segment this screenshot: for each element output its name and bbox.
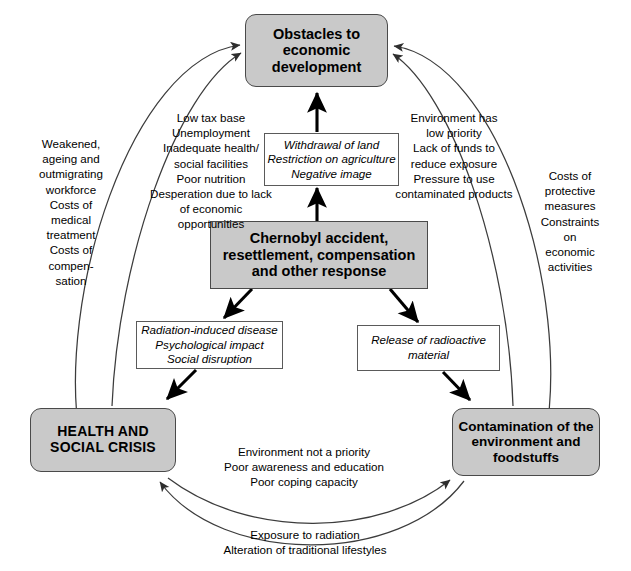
annotation-environment-low-priority: Environment has low priority Lack of fun… (390, 110, 518, 201)
node-contamination-of-environment[interactable]: Contamination of the environment and foo… (452, 408, 600, 476)
node-health-and-social-crisis[interactable]: HEALTH AND SOCIAL CRISIS (30, 408, 176, 472)
label-withdrawal-text: Withdrawal of land Restriction on agricu… (267, 138, 395, 182)
node-obstacles-label: Obstacles to economic development (246, 26, 387, 76)
label-box-radiation-induced-disease: Radiation-induced disease Psychological … (136, 321, 283, 369)
label-radiation-text: Radiation-induced disease Psychological … (141, 323, 278, 367)
node-contamination-label: Contamination of the environment and foo… (453, 419, 599, 465)
diagram-canvas: Obstacles to economic development Cherno… (0, 0, 631, 571)
annotation-environment-not-a-priority: Environment not a priority Poor awarenes… (206, 444, 402, 490)
annotation-exposure-to-radiation: Exposure to radiation Alteration of trad… (205, 527, 405, 557)
arrow-radiation-to-health (167, 370, 196, 399)
label-release-text: Release of radioactive material (371, 333, 486, 362)
node-obstacles-to-economic-development[interactable]: Obstacles to economic development (245, 14, 388, 87)
arrow-center-to-release (390, 289, 418, 322)
node-health-label: HEALTH AND SOCIAL CRISIS (31, 424, 175, 456)
annotation-low-tax-base: Low tax base Unemployment Inadequate hea… (150, 110, 272, 232)
annotation-weakened-workforce: Weakened, ageing and outmigrating workfo… (33, 136, 109, 288)
label-box-release-of-radioactive-material: Release of radioactive material (357, 325, 500, 371)
node-center-label: Chernobyl accident, resettlement, compen… (211, 230, 427, 280)
arrow-release-to-contamination (443, 372, 470, 400)
annotation-costs-protective-measures: Costs of protective measures Constraints… (534, 168, 606, 274)
label-box-withdrawal-of-land: Withdrawal of land Restriction on agricu… (264, 133, 399, 186)
arrow-center-to-radiation (224, 289, 252, 318)
